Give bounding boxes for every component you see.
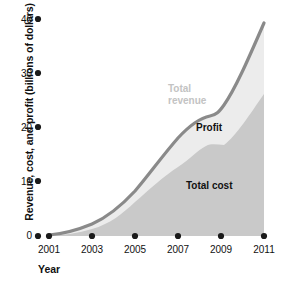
y-tick-dot-30 <box>35 70 41 76</box>
chart-container: Revenue, cost, and profit (billions of d… <box>0 0 289 281</box>
x-tick-dot-2003 <box>89 233 95 239</box>
x-tick-label-2005: 2005 <box>118 244 152 255</box>
x-tick-label-2003: 2003 <box>75 244 109 255</box>
y-tick-dot-40 <box>35 16 41 22</box>
y-tick-dot-10 <box>35 178 41 184</box>
series-label-profit: Profit <box>196 122 222 134</box>
x-axis-title: Year <box>38 263 60 275</box>
x-tick-dot-2011 <box>261 233 267 239</box>
x-tick-label-2001: 2001 <box>32 244 66 255</box>
x-tick-label-2009: 2009 <box>204 244 238 255</box>
x-tick-dot-2009 <box>218 233 224 239</box>
x-tick-dot-2007 <box>175 233 181 239</box>
x-tick-dot-2001 <box>46 233 52 239</box>
x-tick-label-2007: 2007 <box>161 244 195 255</box>
y-tick-dot-20 <box>35 124 41 130</box>
series-label-total-cost: Total cost <box>186 180 232 192</box>
x-tick-dot-2005 <box>132 233 138 239</box>
y-tick-dot-0 <box>35 233 41 239</box>
plot-area <box>0 0 289 281</box>
x-tick-label-2011: 2011 <box>247 244 281 255</box>
series-label-total-revenue: Total revenue <box>168 83 206 106</box>
